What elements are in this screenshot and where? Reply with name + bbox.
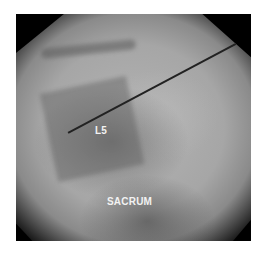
- label-l5: L5: [95, 125, 107, 136]
- vertebral-endplate-shadow: [41, 39, 137, 59]
- label-sacrum: SACRUM: [107, 196, 152, 207]
- l5-vertebral-body: [40, 76, 145, 182]
